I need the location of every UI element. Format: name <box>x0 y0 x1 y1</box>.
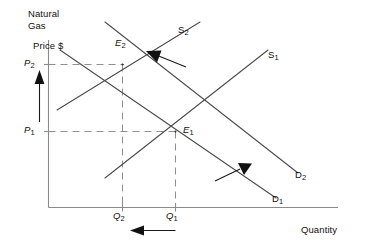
x-tick-label-q2-base: Q <box>113 210 121 221</box>
y-axis-label: Price $ <box>33 40 63 52</box>
equilibrium-point-e1 <box>175 131 177 133</box>
quantity-left-arrow <box>130 226 176 236</box>
price-up-arrow-head <box>35 70 45 84</box>
x-tick-label-q2: Q2 <box>113 210 125 222</box>
equilibrium-label-e2: E2 <box>115 37 126 49</box>
x-tick-label-q1-base: Q <box>166 210 174 221</box>
x-tick-label-q2-sub: 2 <box>121 214 125 223</box>
curve-label-d1-base: D <box>272 193 279 204</box>
y-tick-label-p2: P2 <box>24 57 35 69</box>
curve-label-d1-sub: 1 <box>279 197 283 206</box>
chart-title-line1: Natural <box>28 8 59 20</box>
x-axis-label: Quantity <box>301 224 337 236</box>
y-tick-label-p2-sub: 2 <box>30 61 34 70</box>
demand-curve-d1 <box>60 50 276 198</box>
equilibrium-label-e2-sub: 2 <box>121 41 125 50</box>
supply-curve-s1 <box>105 50 268 178</box>
x-tick-label-q1-sub: 1 <box>174 214 178 223</box>
y-tick-label-p1: P1 <box>24 124 35 136</box>
demand-curve-d2 <box>105 22 298 173</box>
curve-label-s1-sub: 1 <box>274 53 278 62</box>
chart-title-natural-gas: Natural Gas <box>28 8 59 31</box>
supply-curve-group <box>57 22 268 178</box>
chart-title-line2: Gas <box>28 20 59 32</box>
equilibrium-label-e1-sub: 1 <box>189 128 193 137</box>
equilibrium-point-e2 <box>122 64 124 66</box>
y-tick-label-p1-sub: 1 <box>30 128 34 137</box>
curve-label-d1: D1 <box>272 193 283 205</box>
curve-label-d2: D2 <box>295 169 306 181</box>
supply-shift-arrow-shaft <box>158 56 187 68</box>
curve-label-s2-sub: 2 <box>184 28 188 37</box>
demand-shift-arrow-shaft <box>215 169 240 181</box>
curve-label-s2: S2 <box>178 24 189 36</box>
equilibrium-label-e1: E1 <box>183 124 194 136</box>
price-up-arrow <box>35 70 45 122</box>
curve-label-s1: S1 <box>268 49 279 61</box>
supply-demand-figure: Natural Gas Price $ P2 P1 Q2 Q1 Quantity… <box>0 0 368 251</box>
demand-curve-group <box>60 22 298 198</box>
quantity-left-arrow-head <box>130 226 144 236</box>
x-tick-label-q1: Q1 <box>166 210 178 222</box>
curve-label-d2-base: D <box>295 169 302 180</box>
curve-label-d2-sub: 2 <box>302 173 306 182</box>
